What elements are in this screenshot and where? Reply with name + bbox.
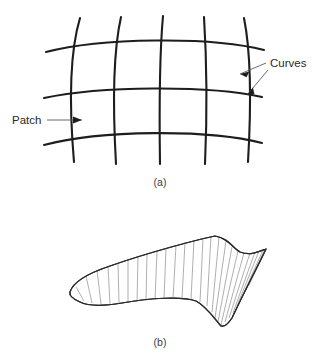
vertical-curve-3 — [160, 16, 163, 164]
horizontal-curve-middle — [44, 88, 262, 98]
patch-arrow-icon — [73, 116, 82, 123]
figure-root: Patch Curves (a) (b) — [0, 0, 330, 353]
panel-a-group: Patch Curves (a) — [12, 16, 307, 188]
caption-panel-b: (b) — [154, 336, 167, 348]
caption-panel-a: (a) — [154, 176, 167, 188]
curves-label: Curves — [270, 57, 307, 69]
horizontal-curve-bottom — [44, 133, 262, 145]
figure-canvas: Patch Curves (a) (b) — [0, 0, 330, 353]
horizontal-curve-top — [46, 40, 264, 52]
patch-label: Patch — [12, 114, 41, 126]
curves-leader-line-upper — [240, 63, 266, 74]
panel-b-group: (b) — [70, 236, 266, 348]
mesh-horizontal-curves — [44, 40, 264, 145]
vertical-curve-1 — [71, 18, 80, 162]
vertical-curve-2 — [114, 17, 121, 164]
